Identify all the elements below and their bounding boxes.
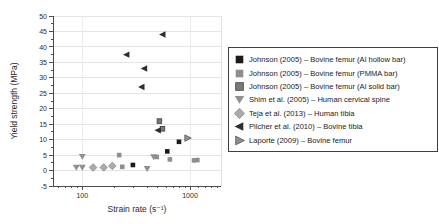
legend-item: Pilcher et al. (2010) – Bovine tibia	[234, 120, 434, 133]
legend-item: Laporte (2009) – Bovine femur	[234, 133, 434, 146]
legend-marker-icon	[236, 136, 245, 145]
data-point-square	[195, 158, 200, 163]
legend-item: Johnson (2005) – Bovine femur (Al solid …	[234, 80, 434, 93]
legend-marker-icon	[236, 56, 244, 64]
y-tick-label: 10	[39, 136, 47, 143]
diamond-icon	[234, 108, 245, 119]
triangle-left-icon	[234, 121, 245, 132]
legend-item-label: Shim et al. (2005) – Human cervical spin…	[249, 95, 390, 104]
legend-marker-icon	[235, 122, 244, 131]
data-point-triangle-down	[79, 165, 86, 171]
y-axis-label: Yield strength (MPa)	[9, 15, 19, 187]
legend-item: Johnson (2005) – Bovine femur (PMMA bar)	[234, 66, 434, 79]
x-axis-label: Strain rate (s⁻¹)	[53, 204, 221, 214]
legend-item-label: Johnson (2005) – Bovine femur (Al solid …	[249, 82, 400, 91]
y-tick-label: -5	[41, 183, 47, 190]
data-point-triangle-down	[73, 165, 80, 171]
square-icon	[234, 68, 245, 79]
y-tick-label: 30	[39, 74, 47, 81]
legend-item-label: Teja et al. (2013) – Human tibia	[249, 109, 355, 118]
y-tick-label: 35	[39, 59, 47, 66]
data-point-triangle-down	[79, 154, 86, 160]
x-tick-label: 100	[76, 192, 88, 199]
y-tick-label: 45	[39, 28, 47, 35]
legend-marker-icon	[236, 69, 244, 77]
data-point-triangle-left	[123, 51, 129, 57]
legend-marker-icon	[234, 108, 244, 118]
data-point-square	[131, 163, 136, 168]
data-point-triangle-left	[138, 84, 144, 90]
data-point-square	[165, 149, 170, 154]
square-icon	[234, 81, 245, 92]
data-point-triangle-left	[141, 65, 147, 71]
chart-figure: -5051015202530354045501001000 Yield stre…	[0, 0, 439, 224]
data-point-square	[117, 153, 122, 158]
data-point-square	[157, 119, 162, 124]
legend-item: Shim et al. (2005) – Human cervical spin…	[234, 93, 434, 106]
legend-item-label: Johnson (2005) – Bovine femur (PMMA bar)	[249, 69, 398, 78]
data-point-diamond	[109, 162, 117, 170]
triangle-right-icon	[234, 135, 245, 146]
y-tick-label: 0	[43, 167, 47, 174]
triangle-down-icon	[234, 94, 245, 105]
legend-item: Johnson (2005) – Bovine femur (Al hollow…	[234, 53, 434, 66]
legend-marker-icon	[235, 96, 245, 104]
legend-item-label: Johnson (2005) – Bovine femur (Al hollow…	[249, 55, 406, 64]
data-point-square	[160, 127, 165, 132]
y-tick-label: 5	[43, 152, 47, 159]
data-point-triangle-left	[159, 31, 165, 37]
legend-item: Teja et al. (2013) – Human tibia	[234, 107, 434, 120]
y-tick-label: 15	[39, 121, 47, 128]
square-icon	[234, 54, 245, 65]
x-tick-label: 1000	[182, 192, 198, 199]
legend-item-label: Pilcher et al. (2010) – Bovine tibia	[249, 122, 363, 131]
legend-marker-icon	[236, 83, 244, 91]
y-tick-label: 20	[39, 105, 47, 112]
y-tick-label: 40	[39, 44, 47, 51]
y-tick-label: 50	[39, 13, 47, 20]
legend-item-label: Laporte (2009) – Bovine femur	[249, 136, 352, 145]
legend-box: Johnson (2005) – Bovine femur (Al hollow…	[228, 47, 438, 152]
data-point-square	[120, 165, 125, 170]
y-tick-label: 25	[39, 90, 47, 97]
data-point-square	[177, 140, 182, 145]
data-point-triangle-left	[154, 127, 160, 133]
data-point-square	[168, 157, 173, 162]
